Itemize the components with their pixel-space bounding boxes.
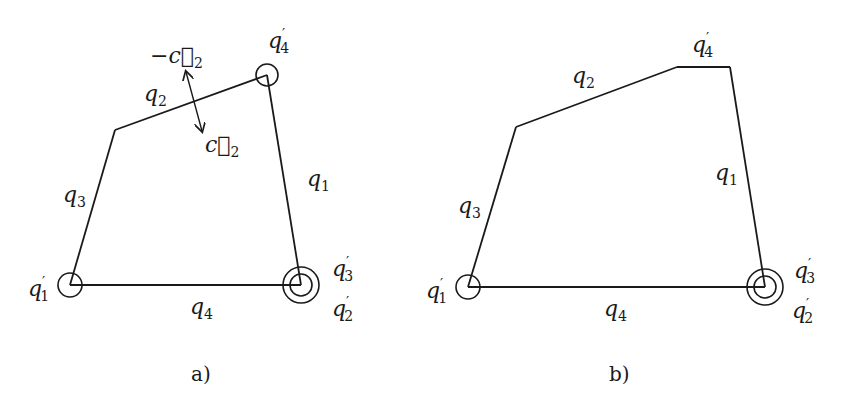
edge-q2 <box>115 75 267 130</box>
label-q2-prime: q′2 <box>332 294 353 324</box>
label-q3: q3 <box>458 193 481 221</box>
label-q1: q1 <box>715 160 738 188</box>
label-q1-prime: q′1 <box>426 276 447 306</box>
panel-a: −c⃗2 c⃗2 q2 q1 q3 q4 q′4 q′1 q′3 q′2 a) <box>28 26 353 386</box>
figure-canvas: −c⃗2 c⃗2 q2 q1 q3 q4 q′4 q′1 q′3 q′2 a) … <box>0 0 848 418</box>
label-q2-prime: q′2 <box>792 296 813 326</box>
label-q4: q4 <box>190 294 213 322</box>
label-c2: c⃗2 <box>205 132 239 160</box>
panel-b: q2 q1 q3 q4 q′4 q′1 q′3 q′2 b) <box>426 30 815 386</box>
label-q2: q2 <box>144 81 167 109</box>
label-neg-c2: −c⃗2 <box>150 43 203 71</box>
normal-vector-arrow <box>186 72 202 131</box>
label-q1: q1 <box>307 166 330 194</box>
label-q2: q2 <box>572 63 595 91</box>
edge-q2 <box>516 67 677 127</box>
edge-q1 <box>267 75 301 285</box>
label-q4-prime: q′4 <box>268 26 289 56</box>
label-q3-prime: q′3 <box>794 256 815 286</box>
label-q1-prime: q′1 <box>28 274 49 304</box>
label-q4-prime: q′4 <box>692 30 713 60</box>
label-q3: q3 <box>63 182 86 210</box>
label-q3-prime: q′3 <box>332 254 353 284</box>
caption-b: b) <box>609 362 630 386</box>
label-q4: q4 <box>604 296 627 324</box>
caption-a: a) <box>191 362 211 386</box>
